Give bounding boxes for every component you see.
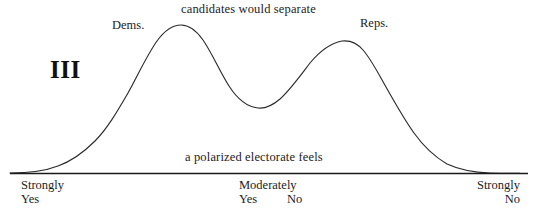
axis-tick-right-line1: Strongly xyxy=(477,178,520,192)
peak-label-reps: Reps. xyxy=(360,16,388,30)
axis-tick-right: Strongly No xyxy=(477,178,520,206)
axis-tick-left-line1: Strongly xyxy=(21,178,64,192)
axis-tick-center-line2: YesNo xyxy=(239,192,302,206)
axis-tick-right-line2: No xyxy=(477,192,520,206)
peak-label-dems: Dems. xyxy=(112,18,144,32)
polarized-electorate-figure: candidates would separate Dems. Reps. II… xyxy=(0,0,538,214)
axis-tick-center-line1: Moderately xyxy=(239,178,302,192)
axis-tick-left-line2: Yes xyxy=(21,192,64,206)
figure-numeral: III xyxy=(50,56,81,84)
title-caption: candidates would separate xyxy=(181,2,316,16)
axis-caption: a polarized electorate feels xyxy=(185,150,323,164)
axis-tick-center: Moderately YesNo xyxy=(239,178,302,206)
axis-tick-center-no: No xyxy=(287,192,302,206)
axis-tick-center-yes: Yes xyxy=(239,192,287,206)
axis-tick-left: Strongly Yes xyxy=(21,178,64,206)
